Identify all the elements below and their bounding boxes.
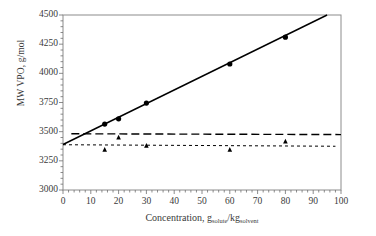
- x-tick-label: 90: [298, 197, 328, 207]
- x-axis-tick-labels: 0102030405060708090100: [0, 0, 376, 236]
- x-axis-title-sub-solute: solute: [212, 217, 227, 224]
- x-tick-label: 100: [326, 197, 356, 207]
- x-tick-label: 30: [131, 197, 161, 207]
- x-axis-title-main: Concentration, g: [145, 212, 212, 223]
- x-tick-label: 40: [159, 197, 189, 207]
- x-tick-label: 10: [76, 197, 106, 207]
- x-tick-label: 60: [215, 197, 245, 207]
- x-tick-label: 70: [243, 197, 273, 207]
- x-tick-label: 80: [270, 197, 300, 207]
- x-axis-title: Concentration, gsolute/kgsolvent: [63, 212, 341, 224]
- x-tick-label: 0: [48, 197, 78, 207]
- x-axis-title-sub-solvent: solvent: [240, 217, 258, 224]
- y-axis-title: MW VPO, g/mol: [16, 0, 26, 148]
- x-axis-title-mid: /kg: [227, 212, 240, 223]
- chart-figure: 3000325035003750400042504500 01020304050…: [0, 0, 376, 236]
- x-tick-label: 50: [187, 197, 217, 207]
- x-tick-label: 20: [104, 197, 134, 207]
